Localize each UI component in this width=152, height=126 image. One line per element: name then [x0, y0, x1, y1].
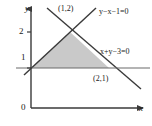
x-axis-label: x [139, 104, 143, 113]
point-label-1-2: (1,2) [58, 5, 73, 13]
equation-label-y-minus-x-minus-1: y−x−1=0 [99, 8, 129, 16]
math-figure: y x 0 2 1 (1,2) (2,1) y−x−1=0 x+y−3=0 [0, 0, 152, 126]
y-axis-label: y [25, 4, 29, 13]
equation-label-x-plus-y-minus-3: x+y−3=0 [100, 48, 130, 56]
shaded-feasible-region [31, 32, 109, 68]
point-label-2-1: (2,1) [93, 75, 108, 83]
origin-label: 0 [21, 103, 26, 112]
y-tick-label-1: 1 [21, 53, 26, 62]
y-tick-label-2: 2 [19, 27, 24, 36]
